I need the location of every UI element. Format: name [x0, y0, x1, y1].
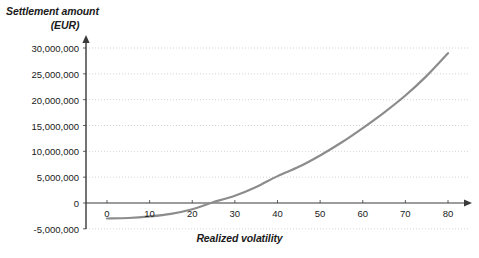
gridlines: [83, 48, 470, 229]
y-axis-title-line1: Settlement amount: [6, 5, 99, 17]
y-axis-tick-label: 15,000,000: [0, 120, 79, 131]
y-axis-tick-label: 0: [0, 198, 79, 209]
y-axis-tick-label: 30,000,000: [0, 43, 79, 54]
x-axis-tick-label: 40: [272, 208, 283, 219]
x-axis-tick-label: 50: [315, 208, 326, 219]
chart-container: Settlement amount (EUR) Realized volatil…: [0, 0, 479, 258]
y-axis-tick-label: -5,000,000: [0, 223, 79, 234]
y-axis-tick-label: 25,000,000: [0, 68, 79, 79]
x-axis-tick-label: 20: [187, 208, 198, 219]
settlement-amount-curve: [107, 53, 448, 218]
x-axis-tick-label: 0: [104, 208, 109, 219]
x-axis-tick-label: 70: [400, 208, 411, 219]
y-axis-title-line2: (EUR): [6, 19, 124, 31]
x-axis-tick-label: 60: [357, 208, 368, 219]
y-axis-arrowhead: [82, 35, 89, 43]
x-axis-tick-label: 10: [144, 208, 155, 219]
y-axis-tick-label: 20,000,000: [0, 94, 79, 105]
y-axis-tick-label: 5,000,000: [0, 172, 79, 183]
x-axis-tick-label: 30: [230, 208, 241, 219]
x-axis-arrowhead: [464, 199, 472, 206]
y-axis-tick-label: 10,000,000: [0, 146, 79, 157]
x-axis-tick-label: 80: [443, 208, 454, 219]
